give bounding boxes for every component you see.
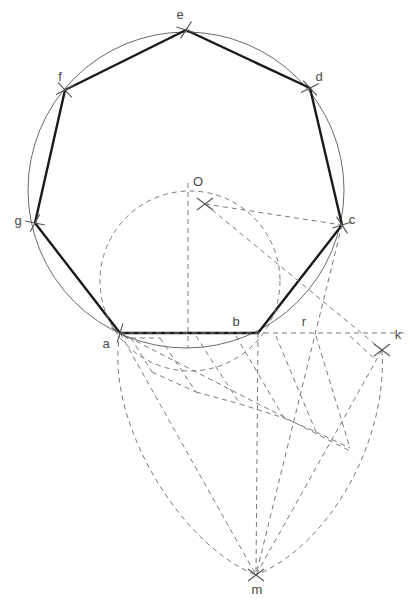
label-d: d	[315, 69, 322, 84]
geometry-figure-canvas: abcdefgOrkm	[0, 0, 413, 608]
construction-transversal-6	[350, 336, 376, 360]
compass-tick-O	[197, 198, 213, 210]
label-c: c	[349, 212, 356, 227]
construction-lines-group	[120, 183, 404, 575]
construction-transversal-3	[236, 336, 284, 418]
label-O: O	[193, 174, 203, 189]
tick-stroke-b	[25, 214, 45, 232]
label-e: e	[176, 7, 183, 22]
label-b: b	[232, 314, 239, 329]
label-k: k	[395, 327, 402, 342]
compass-tick-e	[176, 22, 195, 39]
construction-oblique-guide	[120, 333, 352, 452]
construction-transversal-5	[316, 336, 350, 448]
construction-step-connector-1	[152, 372, 196, 392]
compass-tick-g	[25, 214, 45, 232]
label-r: r	[302, 314, 307, 329]
construction-ray-to-m-2	[256, 225, 342, 575]
point-labels-group: abcdefgOrkm	[14, 7, 401, 597]
heptagon-outline	[35, 30, 342, 333]
label-m: m	[252, 582, 263, 597]
compass-tick-marks-group	[25, 22, 390, 581]
construction-circle	[100, 191, 280, 371]
construction-ray-to-m-0	[120, 333, 256, 575]
circumcircle	[28, 32, 344, 348]
construction-ray-from-o-0	[205, 204, 342, 225]
tick-stroke-b	[176, 22, 195, 39]
construction-transversal-4	[276, 336, 316, 432]
construction-step-connector-5	[316, 432, 350, 448]
label-a: a	[102, 336, 110, 351]
label-f: f	[58, 69, 62, 84]
construction-ray-to-m-1	[256, 333, 258, 575]
construction-ray-to-m-3	[256, 350, 382, 575]
construction-arcs-group	[118, 333, 383, 575]
label-g: g	[14, 213, 21, 228]
construction-drawing: abcdefgOrkm	[0, 0, 413, 608]
construction-step-connector-2	[196, 392, 240, 404]
